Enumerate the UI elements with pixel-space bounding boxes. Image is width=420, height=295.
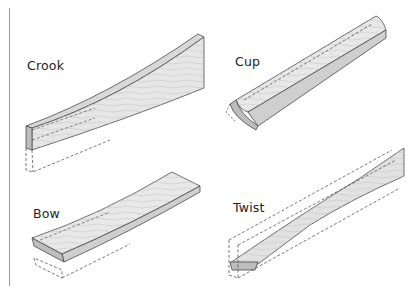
cup-label: Cup (235, 54, 260, 69)
crook-board (26, 34, 204, 172)
bow-label: Bow (33, 206, 60, 221)
twist-label: Twist (233, 200, 265, 215)
bow-board (32, 172, 200, 278)
warp-illustrations (0, 0, 420, 295)
cup-board (226, 16, 386, 130)
crook-label: Crook (27, 58, 64, 73)
